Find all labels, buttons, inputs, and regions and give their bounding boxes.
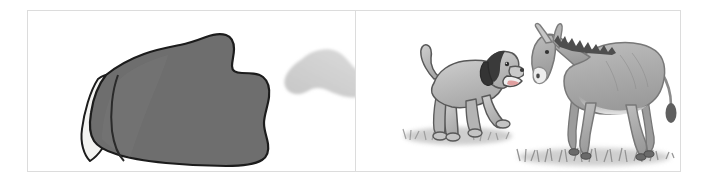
figure-root: Two abstract gray silhouette shapes on w… xyxy=(0,0,706,185)
puppy-eye-highlight xyxy=(506,63,507,64)
bean-blob-path xyxy=(284,49,355,97)
donkey-muzzle xyxy=(533,67,547,84)
donkey-eye xyxy=(545,50,549,54)
puppy-eye xyxy=(505,62,509,66)
donkey xyxy=(516,21,681,171)
donkey-nostril xyxy=(536,74,540,79)
puppy-tail xyxy=(421,45,440,79)
left-panel xyxy=(28,11,355,171)
figure-frame xyxy=(27,10,681,172)
donkey-tail-tuft xyxy=(666,103,677,123)
gray-bean-blob xyxy=(276,39,355,111)
right-panel xyxy=(356,11,681,171)
dark-hide-shape xyxy=(68,25,278,171)
donkey-front-leg-near xyxy=(580,103,596,155)
